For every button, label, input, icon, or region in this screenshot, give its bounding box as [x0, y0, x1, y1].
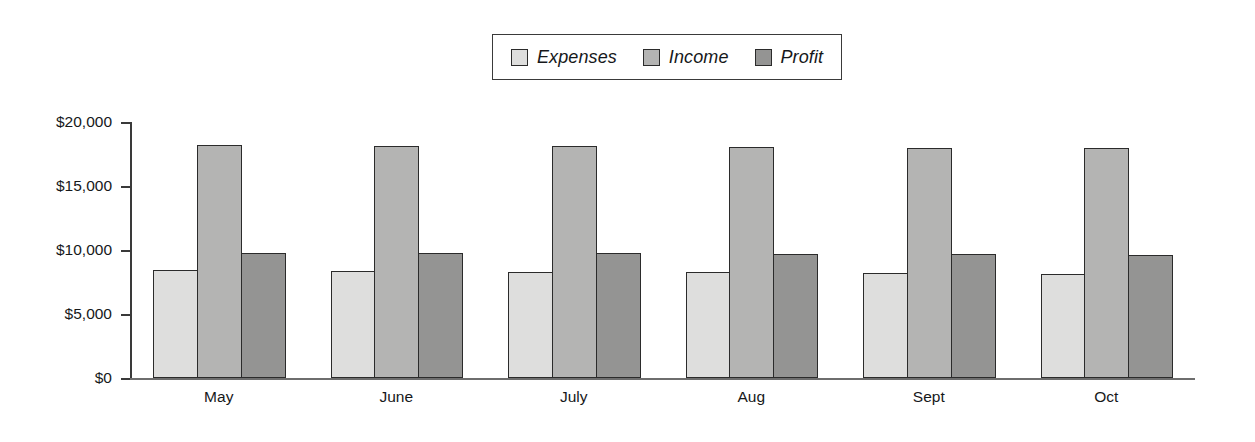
legend-entry-profit: Profit — [755, 47, 824, 68]
bar-income-june — [374, 146, 419, 378]
y-tick-label: $0 — [95, 369, 112, 387]
legend-swatch-profit — [755, 49, 772, 66]
bar-group-sept — [863, 122, 994, 378]
plot-area: $0$5,000$10,000$15,000$20,000 — [130, 122, 1195, 378]
bar-income-aug — [729, 147, 774, 378]
legend-label: Income — [669, 47, 729, 68]
bar-group-oct — [1041, 122, 1172, 378]
bar-group-june — [331, 122, 462, 378]
bar-profit-aug — [773, 254, 818, 378]
chart-legend: ExpensesIncomeProfit — [492, 34, 842, 80]
y-tick-mark: $5,000 — [121, 314, 130, 316]
legend-swatch-expenses — [511, 49, 528, 66]
bar-group-may — [153, 122, 284, 378]
x-label-sept: Sept — [840, 388, 1018, 406]
x-axis-line — [130, 378, 1195, 380]
bar-profit-oct — [1128, 255, 1173, 378]
bar-group-july — [508, 122, 639, 378]
legend-label: Profit — [781, 47, 824, 68]
legend-entry-income: Income — [643, 47, 729, 68]
bar-expenses-july — [508, 272, 553, 378]
x-label-july: July — [485, 388, 663, 406]
y-tick-mark: $15,000 — [121, 186, 130, 188]
y-tick-label: $20,000 — [56, 113, 112, 131]
legend-label: Expenses — [537, 47, 617, 68]
bar-profit-june — [418, 253, 463, 378]
x-axis-labels: MayJuneJulyAugSeptOct — [130, 388, 1195, 406]
bar-profit-may — [241, 253, 286, 378]
bar-series-container — [130, 122, 1195, 378]
x-label-aug: Aug — [663, 388, 841, 406]
y-tick-mark: $20,000 — [121, 122, 130, 124]
bar-profit-sept — [951, 254, 996, 378]
y-tick-label: $10,000 — [56, 241, 112, 259]
bar-income-may — [197, 145, 242, 378]
bar-income-oct — [1084, 148, 1129, 378]
y-tick-label: $15,000 — [56, 177, 112, 195]
legend-swatch-income — [643, 49, 660, 66]
bar-profit-july — [596, 253, 641, 378]
y-tick-label: $5,000 — [65, 305, 112, 323]
x-label-may: May — [130, 388, 308, 406]
bar-chart: ExpensesIncomeProfit $0$5,000$10,000$15,… — [0, 0, 1255, 442]
y-tick-mark: $0 — [121, 378, 130, 380]
bar-expenses-may — [153, 270, 198, 378]
bar-income-july — [552, 146, 597, 378]
bar-income-sept — [907, 148, 952, 378]
bar-group-aug — [686, 122, 817, 378]
x-label-oct: Oct — [1018, 388, 1196, 406]
bar-expenses-sept — [863, 273, 908, 378]
legend-entry-expenses: Expenses — [511, 47, 617, 68]
y-tick-mark: $10,000 — [121, 250, 130, 252]
bar-expenses-aug — [686, 272, 731, 378]
bar-expenses-oct — [1041, 274, 1086, 378]
x-label-june: June — [308, 388, 486, 406]
bar-expenses-june — [331, 271, 376, 378]
